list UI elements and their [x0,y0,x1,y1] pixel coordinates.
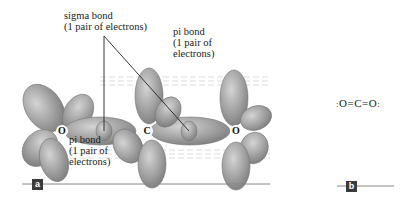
sigma-bond-desc: (1 pair of electrons) [64,21,147,32]
lewis-oxygen-right: O [369,97,377,109]
pi-bond-top-desc-1: (1 pair of [173,37,214,48]
lone-pair-dots-right: : [377,99,380,109]
pi-bond-bottom-title: pi bond [69,134,110,145]
lewis-double-bond-2: = [362,97,369,109]
lewis-structure: :O=C=O: [336,97,380,109]
atom-oxygen-right: O [230,125,242,137]
pi-bond-bottom-desc-1: (1 pair of [69,145,110,156]
sigma-bond-title: sigma bond [64,10,147,21]
co2-orbital-figure: O C O sigma bond (1 pair of electrons) p… [0,0,414,204]
atom-carbon: C [141,125,153,137]
panel-tag-b: b [346,181,357,192]
atom-oxygen-left: O [56,125,68,137]
pi-bond-top-desc-2: electrons) [173,48,214,59]
panel-tag-a: a [32,179,43,190]
pi-bond-bottom-label: pi bond (1 pair of electrons) [69,134,110,167]
lewis-carbon: C [354,97,362,109]
sigma-bond-label: sigma bond (1 pair of electrons) [64,10,147,32]
pi-bond-top-label: pi bond (1 pair of electrons) [173,26,214,59]
pi-bond-top-title: pi bond [173,26,214,37]
pi-bond-bottom-desc-2: electrons) [69,156,110,167]
